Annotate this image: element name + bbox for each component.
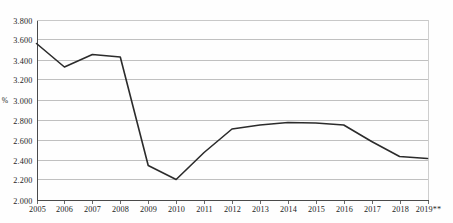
y-axis-label-group: %: [2, 96, 9, 105]
x-axis-ticks: 2005200620072008200920102011201220132014…: [29, 201, 441, 215]
y-axis-tick-label: 2.600: [13, 137, 32, 146]
y-axis-tick-label: 3.800: [13, 17, 32, 26]
x-axis-tick-label: 2019**: [416, 205, 441, 214]
data-series-group: [37, 44, 428, 180]
x-axis-tick-label: 2007: [84, 205, 101, 214]
y-axis-unit-label: %: [2, 96, 9, 105]
x-axis-tick-label: 2017: [364, 205, 381, 214]
gridlines-group: [37, 21, 428, 201]
y-axis-tick-label: 2.400: [13, 157, 32, 166]
x-axis-tick-label: 2014: [280, 205, 297, 214]
x-axis-tick-label: 2011: [196, 205, 213, 214]
x-axis-tick-label: 2006: [56, 205, 73, 214]
y-axis-tick-label: 2.200: [13, 176, 32, 185]
plot-frame: [38, 21, 429, 201]
data-series-line: [37, 44, 428, 180]
y-axis-tick-label: 3.200: [13, 76, 32, 85]
y-axis-tick-label: 3.400: [13, 57, 32, 66]
x-axis-tick-label: 2016: [336, 205, 353, 214]
x-axis-tick-label: 2013: [252, 205, 269, 214]
y-axis-tick-label: 3.600: [13, 36, 32, 45]
chart-container: 2.0002.2002.4002.6002.8003.0003.2003.400…: [0, 0, 453, 223]
x-axis-tick-label: 2008: [112, 205, 129, 214]
y-axis-tick-label: 2.800: [13, 117, 32, 126]
line-chart: 2.0002.2002.4002.6002.8003.0003.2003.400…: [0, 0, 453, 223]
x-axis-tick-label: 2012: [224, 205, 241, 214]
y-axis-ticks: 2.0002.2002.4002.6002.8003.0003.2003.400…: [13, 17, 32, 206]
x-axis-tick-label: 2015: [308, 205, 325, 214]
x-axis-tick-label: 2005: [29, 205, 46, 214]
x-axis-tick-label: 2009: [140, 205, 157, 214]
x-axis-tick-label: 2010: [168, 205, 185, 214]
y-axis-tick-label: 3.000: [13, 97, 32, 106]
x-axis-tick-label: 2018: [392, 205, 409, 214]
